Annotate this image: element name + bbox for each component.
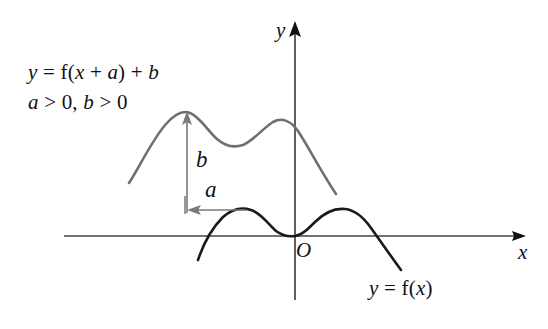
eq1-plus-2: + (131, 60, 143, 84)
parameter-conditions-line: a > 0, b > 0 (28, 92, 128, 113)
original-curve-label: y = f(x) (369, 278, 433, 299)
eq1-equals: = (43, 60, 55, 84)
eq1-x: x (75, 60, 85, 84)
fx-f: f (401, 276, 408, 300)
fx-y: y (369, 276, 379, 300)
graph-canvas (0, 0, 548, 329)
fx-open-paren: ( (409, 276, 416, 300)
vertical-shift-arrow (182, 111, 192, 213)
vertical-shift-label: b (196, 148, 208, 171)
eq1-y: y (28, 60, 38, 84)
eq2-b: b (83, 90, 94, 114)
eq2-a-condition: > 0, (44, 90, 78, 114)
eq1-b: b (148, 60, 159, 84)
eq2-a: a (28, 90, 39, 114)
eq1-open-paren: ( (68, 60, 75, 84)
x-axis-label: x (518, 242, 527, 263)
fx-equals: = (384, 276, 396, 300)
translated-curve (129, 112, 336, 194)
eq1-a: a (107, 60, 118, 84)
eq1-f: f (60, 60, 67, 84)
function-transformation-figure: y = f(x + a) + b a > 0, b > 0 b a O x y … (0, 0, 548, 329)
fx-close-paren: ) (425, 276, 432, 300)
fx-x: x (416, 276, 426, 300)
eq1-plus-1: + (90, 60, 102, 84)
eq2-b-condition: > 0 (99, 90, 127, 114)
eq1-close-paren: ) (118, 60, 125, 84)
origin-label: O (296, 240, 311, 261)
translated-equation-line: y = f(x + a) + b (28, 62, 159, 83)
horizontal-shift-label: a (205, 178, 217, 201)
y-axis-label: y (276, 20, 285, 41)
